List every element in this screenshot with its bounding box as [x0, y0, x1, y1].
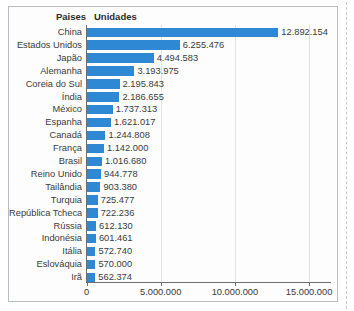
column-header-paises: Paises: [9, 11, 86, 22]
bar: [87, 28, 278, 38]
bar-value-label: 3.193.975: [137, 66, 178, 76]
bar: [87, 221, 96, 231]
page-edge-guide: [346, 2, 347, 309]
x-tick-label: 15.000.000: [286, 287, 333, 297]
bar-category-label: França: [9, 143, 82, 153]
x-axis: 05.000.00010.000.00015.000.000: [9, 283, 338, 299]
bar: [87, 182, 100, 192]
bar-category-label: Coreia do Sul: [9, 79, 82, 89]
bar-value-label: 903.380: [103, 182, 137, 192]
bar: [87, 273, 95, 283]
bar: [87, 208, 98, 218]
bar-category-label: Índia: [9, 92, 82, 102]
bar-value-label: 1.142.000: [107, 143, 148, 153]
bar: [87, 247, 95, 257]
bar-category-label: Rússia: [9, 221, 82, 231]
bar-value-label: 1.016.680: [105, 156, 146, 166]
column-header-unidades: Unidades: [94, 11, 137, 22]
bar-value-label: 1.621.017: [114, 117, 155, 127]
bar: [87, 169, 101, 179]
x-tick-mark: [87, 283, 88, 286]
bar-value-label: 2.186.655: [122, 92, 163, 102]
table-header-row: Paises Unidades: [9, 11, 338, 24]
bar-value-label: 572.740: [98, 246, 132, 256]
bar-category-label: Irã: [9, 272, 82, 282]
bar-value-label: 2.195.843: [123, 79, 164, 89]
bar-value-label: 4.494.583: [157, 53, 198, 63]
bar: [87, 53, 154, 63]
bar-value-label: 612.130: [99, 221, 133, 231]
bar: [87, 157, 102, 167]
x-tick-mark: [309, 283, 310, 286]
bar: [87, 92, 119, 102]
bar-category-label: Itália: [9, 246, 82, 256]
bar-category-label: República Tcheca: [9, 208, 82, 218]
bar-category-label: Estados Unidos: [9, 40, 82, 50]
bar-category-label: Brasil: [9, 156, 82, 166]
chart-panel: Paises Unidades China12.892.154Estados U…: [8, 6, 338, 302]
bar-value-label: 1.737.313: [116, 104, 157, 114]
bar: [87, 105, 113, 115]
bar-value-label: 601.461: [99, 233, 133, 243]
plot-area: China12.892.154Estados Unidos6.255.476Ja…: [9, 25, 338, 283]
bar-category-label: Turquia: [9, 195, 82, 205]
bar-rows: China12.892.154Estados Unidos6.255.476Ja…: [9, 25, 338, 283]
bar-value-label: 725.477: [101, 195, 135, 205]
bar-category-label: Alemanha: [9, 66, 82, 76]
bar-value-label: 1.244.808: [108, 130, 149, 140]
bar-value-label: 12.892.154: [281, 27, 328, 37]
bar-value-label: 722.236: [101, 208, 135, 218]
x-tick-mark: [235, 283, 236, 286]
bar: [87, 79, 120, 89]
x-tick-mark: [161, 283, 162, 286]
bar: [87, 66, 134, 76]
x-tick-label: 5.000.000: [140, 287, 181, 297]
bar: [87, 118, 111, 128]
bar: [87, 260, 95, 270]
bar-category-label: México: [9, 104, 82, 114]
bar-category-label: Reino Unido: [9, 169, 82, 179]
bar: [87, 40, 180, 50]
bar: [87, 131, 105, 141]
bar-category-label: Indonésia: [9, 233, 82, 243]
bar-value-label: 562.374: [98, 272, 132, 282]
bar-category-label: Espanha: [9, 117, 82, 127]
bar: [87, 144, 104, 154]
bar-category-label: Canadá: [9, 130, 82, 140]
bar-category-label: Tailândia: [9, 182, 82, 192]
x-tick-label: 10.000.000: [212, 287, 259, 297]
bar-category-label: China: [9, 27, 82, 37]
bar: [87, 234, 96, 244]
clipped-chart-title: Produção mundial de automóveis - 2018 (p…: [0, 0, 354, 5]
bar-category-label: Japão: [9, 53, 82, 63]
bar-category-label: Eslováquia: [9, 259, 82, 269]
bar-value-label: 570.000: [98, 259, 132, 269]
x-tick-label: 0: [84, 287, 89, 297]
bar-value-label: 6.255.476: [183, 40, 224, 50]
bar: [87, 195, 98, 205]
bar-value-label: 944.778: [104, 169, 138, 179]
